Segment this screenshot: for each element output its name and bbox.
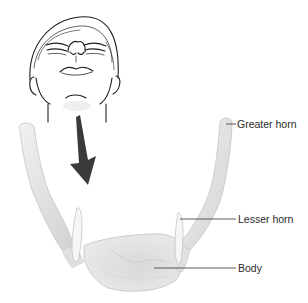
label-lesser-horn: Lesser horn xyxy=(238,213,293,225)
label-greater-horn: Greater horn xyxy=(237,118,297,130)
right-lesser-horn xyxy=(175,213,183,264)
label-body: Body xyxy=(238,262,262,274)
hyoid-bone xyxy=(19,118,232,291)
left-lesser-horn xyxy=(72,208,82,262)
left-greater-horn xyxy=(19,123,74,250)
right-greater-horn xyxy=(180,118,232,250)
hyoid-diagram: Greater horn Lesser horn Body xyxy=(0,0,308,303)
hyoid-illustration xyxy=(0,0,308,303)
down-arrow-icon xyxy=(70,115,96,185)
chin-highlight xyxy=(63,101,91,111)
